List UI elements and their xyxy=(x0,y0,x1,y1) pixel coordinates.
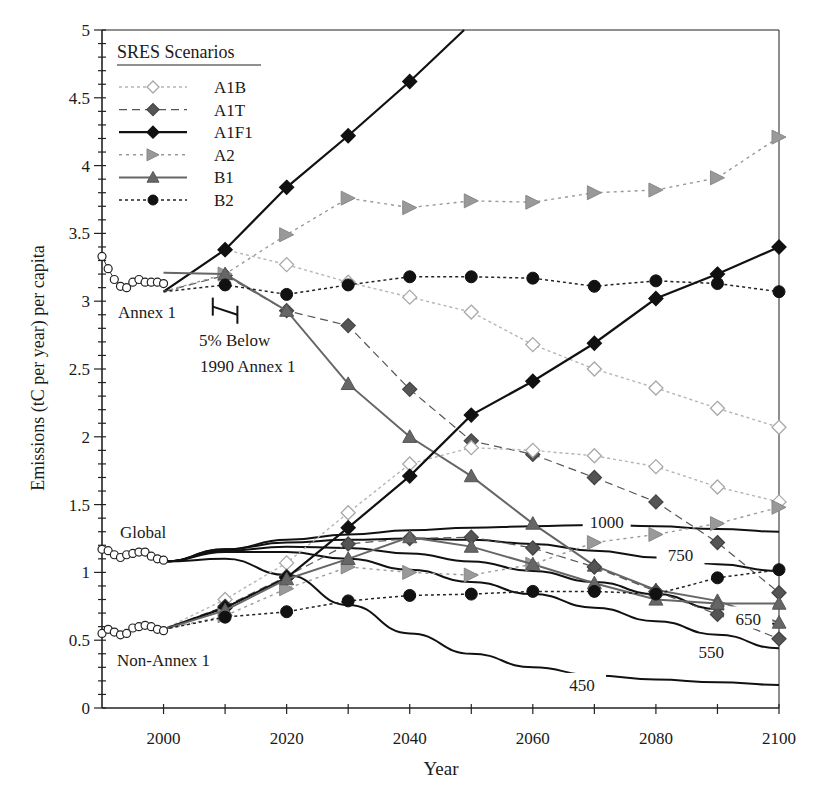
circle-marker xyxy=(465,588,477,600)
diamond-marker xyxy=(147,104,159,116)
kyoto-line xyxy=(213,307,238,315)
diamond-marker xyxy=(710,480,724,494)
diamond-marker xyxy=(147,81,159,93)
diamond-marker xyxy=(649,381,663,395)
kyoto-target-marker xyxy=(213,298,238,324)
stabilization-label-750: 750 xyxy=(668,546,694,565)
historical-marker xyxy=(104,265,112,273)
diamond-marker xyxy=(403,290,417,304)
historical-marker xyxy=(110,276,118,284)
circle-marker xyxy=(527,585,539,597)
legend-label: B1 xyxy=(214,168,234,187)
y-tick-label: 5 xyxy=(82,21,91,40)
diamond-marker xyxy=(280,556,294,570)
x-tick-label: 2040 xyxy=(393,729,427,748)
legend-entry-a1f1: A1F1 xyxy=(119,123,253,142)
historical-annex1 xyxy=(98,252,168,291)
legend-entry-a1b: A1B xyxy=(119,78,246,97)
triangle-marker xyxy=(710,171,724,185)
circle-marker xyxy=(465,271,477,283)
triangle-marker xyxy=(280,228,294,242)
annex1-label: Annex 1 xyxy=(118,303,176,322)
triangle-up-marker xyxy=(526,517,540,530)
non_annex1-a2-line xyxy=(164,507,779,629)
triangle-marker xyxy=(526,195,540,209)
stabilization-label-550: 550 xyxy=(699,643,725,662)
circle-marker xyxy=(219,611,231,623)
diamond-marker xyxy=(147,126,159,138)
diamond-marker xyxy=(280,258,294,272)
annex1-a1f1-line xyxy=(164,30,465,292)
historical-marker xyxy=(160,556,168,564)
circle-marker xyxy=(773,564,785,576)
y-tick-label: 2 xyxy=(82,428,91,447)
circle-marker xyxy=(773,286,785,298)
legend-entry-b1: B1 xyxy=(119,168,234,187)
circle-marker xyxy=(404,589,416,601)
diamond-marker xyxy=(710,267,724,281)
stabilization-label-1000: 1000 xyxy=(590,513,624,532)
diamond-marker xyxy=(587,449,601,463)
non-annex1-label: Non-Annex 1 xyxy=(117,651,210,670)
diamond-marker xyxy=(526,374,540,388)
y-tick-label: 4 xyxy=(82,157,91,176)
legend-title: SRES Scenarios xyxy=(117,42,235,62)
circle-marker xyxy=(219,279,231,291)
historical-marker xyxy=(98,252,106,260)
diamond-marker xyxy=(772,240,786,254)
triangle-up-marker xyxy=(464,469,478,482)
triangle-marker xyxy=(587,536,601,550)
circle-marker xyxy=(588,585,600,597)
y-axis-label: Emissions (tC per year) per capita xyxy=(28,245,49,490)
legend-label: A2 xyxy=(214,146,235,165)
circle-marker xyxy=(650,588,662,600)
y-tick-label: 1.5 xyxy=(69,496,90,515)
x-tick-label: 2100 xyxy=(762,729,796,748)
circle-marker xyxy=(342,279,354,291)
triangle-marker xyxy=(341,191,355,205)
diamond-marker xyxy=(649,495,663,509)
five-below-label: 5% Below xyxy=(199,331,271,350)
circle-marker xyxy=(588,280,600,292)
triangle-marker xyxy=(649,527,663,541)
y-tick-label: 2.5 xyxy=(69,360,90,379)
y-tick-label: 0.5 xyxy=(69,631,90,650)
legend-label: A1F1 xyxy=(214,123,253,142)
circle-marker xyxy=(527,272,539,284)
stabilization-label-650: 650 xyxy=(735,610,761,629)
diamond-marker xyxy=(587,362,601,376)
legend-label: A1T xyxy=(214,101,246,120)
circle-marker xyxy=(148,195,158,205)
stabilization-label-450: 450 xyxy=(569,676,595,695)
diamond-marker xyxy=(710,536,724,550)
historical-marker xyxy=(160,280,168,288)
circle-marker xyxy=(342,595,354,607)
triangle-marker xyxy=(403,565,417,579)
triangle-marker xyxy=(464,568,478,582)
x-axis-label: Year xyxy=(423,758,459,779)
diamond-marker xyxy=(710,401,724,415)
emissions-chart: 00.511.522.533.544.552000202020402060208… xyxy=(0,0,825,799)
diamond-marker xyxy=(341,506,355,520)
y-tick-label: 4.5 xyxy=(69,89,90,108)
circle-marker xyxy=(650,275,662,287)
global-label: Global xyxy=(120,523,167,542)
y-tick-label: 3.5 xyxy=(69,224,90,243)
x-tick-label: 2020 xyxy=(270,729,304,748)
diamond-marker xyxy=(649,460,663,474)
x-tick-label: 2080 xyxy=(639,729,673,748)
diamond-marker xyxy=(526,338,540,352)
triangle-marker xyxy=(587,186,601,200)
circle-marker xyxy=(404,271,416,283)
y-tick-label: 3 xyxy=(82,292,91,311)
legend-entry-a1t: A1T xyxy=(119,101,246,120)
triangle-marker xyxy=(147,149,159,161)
historical-non_annex1 xyxy=(98,621,168,638)
triangle-marker xyxy=(403,201,417,215)
diamond-marker xyxy=(341,319,355,333)
triangle-marker xyxy=(649,183,663,197)
legend-label: B2 xyxy=(214,191,234,210)
triangle-marker xyxy=(464,194,478,208)
x-tick-label: 2000 xyxy=(147,729,181,748)
legend: SRES ScenariosA1BA1TA1F1A2B1B2 xyxy=(117,42,261,210)
